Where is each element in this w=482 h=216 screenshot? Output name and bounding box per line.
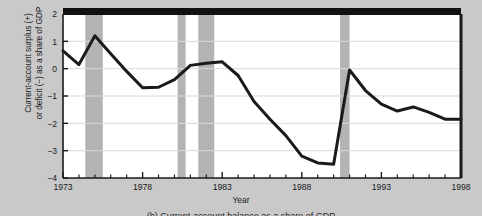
x-tick-labels-group: 197319781983198819931998 (53, 182, 470, 192)
top-border-bar (63, 8, 461, 15)
y-tick-label: 2 (52, 9, 57, 19)
y-axis-label: Current-account surplus (+) or deficit (… (23, 0, 45, 163)
x-tick-label: 1998 (451, 182, 470, 192)
x-tick-label: 1988 (292, 182, 311, 192)
y-tick-labels-group: 210−1−2−3−4 (47, 9, 57, 183)
x-tick-label: 1983 (213, 182, 232, 192)
x-tick-label: 1993 (372, 182, 391, 192)
y-tick-label: 0 (52, 64, 57, 74)
line-chart: 210−1−2−3−4 197319781983198819931998 (0, 0, 482, 216)
x-tick-label: 1978 (133, 182, 152, 192)
x-axis-label: Year (0, 195, 482, 205)
x-tick-label: 1973 (53, 182, 72, 192)
figure-container: Current-account surplus (+) or deficit (… (0, 0, 482, 216)
y-tick-label: 1 (52, 37, 57, 47)
figure-caption: (b) Current-account balance as a share o… (0, 211, 482, 216)
y-tick-label: −3 (47, 146, 57, 156)
y-tick-label: −1 (47, 91, 57, 101)
y-tick-label: −2 (47, 119, 57, 129)
